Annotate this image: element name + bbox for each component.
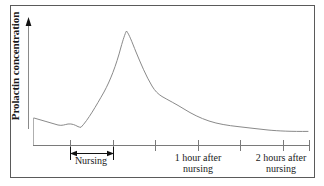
x-label-nursing-line-1: Nursing [61, 155, 121, 166]
x-label-nursing: Nursing [61, 155, 121, 166]
y-axis-arrow-icon [26, 17, 32, 26]
y-axis-label: Prolactin concentration [9, 6, 21, 126]
x-label-one-hour-after-nursing: 1 hour after nursing [155, 152, 241, 174]
prolactin-curve [34, 31, 308, 131]
y-axis [26, 17, 32, 129]
x-axis [33, 140, 310, 151]
x-label-two-hours-line-1: 2 hours after [238, 152, 324, 163]
x-label-one-hour-line-1: 1 hour after [155, 152, 241, 163]
prolactin-concentration-figure: Prolactin concentration Nursing 1 hour a… [0, 0, 324, 186]
x-label-two-hours-after-nursing: 2 hours after nursing [238, 152, 324, 174]
x-label-one-hour-line-2: nursing [155, 163, 241, 174]
x-label-two-hours-line-2: nursing [238, 163, 324, 174]
